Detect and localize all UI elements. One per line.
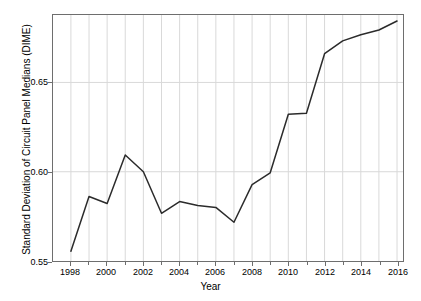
x-tick-label-0: 1998 xyxy=(50,267,90,277)
y-tick-label-0: 0.55 xyxy=(8,257,48,267)
x-tick-mark-2013 xyxy=(343,262,344,265)
x-tick-mark-2004 xyxy=(179,262,180,266)
x-tick-mark-2014 xyxy=(361,262,362,266)
x-tick-mark-2012 xyxy=(325,262,326,266)
y-tick-label-1: 0.60 xyxy=(8,167,48,177)
x-tick-mark-2011 xyxy=(307,262,308,265)
x-tick-label-8: 2014 xyxy=(341,267,381,277)
x-tick-mark-2016 xyxy=(398,262,399,266)
x-tick-mark-2015 xyxy=(380,262,381,265)
x-tick-mark-2010 xyxy=(288,262,289,266)
x-tick-mark-2005 xyxy=(197,262,198,265)
y-tick-label-2: 0.65 xyxy=(8,77,48,87)
x-tick-mark-2009 xyxy=(270,262,271,265)
x-tick-mark-2008 xyxy=(252,262,253,266)
x-tick-mark-2003 xyxy=(161,262,162,265)
x-tick-mark-1998 xyxy=(70,262,71,266)
chart-figure: Standard Deviation of Circuit Panel Medi… xyxy=(0,0,421,301)
x-tick-label-7: 2012 xyxy=(305,267,345,277)
x-tick-mark-2000 xyxy=(106,262,107,266)
x-tick-label-2: 2002 xyxy=(123,267,163,277)
y-axis-title: Standard Deviation of Circuit Panel Medi… xyxy=(21,10,32,270)
x-tick-label-3: 2004 xyxy=(159,267,199,277)
x-tick-mark-2002 xyxy=(143,262,144,266)
y-tick-mark-0 xyxy=(48,262,52,263)
data-line-series xyxy=(53,15,403,261)
x-tick-label-6: 2010 xyxy=(268,267,308,277)
x-tick-label-1: 2000 xyxy=(86,267,126,277)
x-tick-mark-1999 xyxy=(88,262,89,265)
x-tick-label-9: 2016 xyxy=(378,267,418,277)
x-tick-mark-2001 xyxy=(125,262,126,265)
x-tick-mark-2007 xyxy=(234,262,235,265)
x-tick-label-5: 2008 xyxy=(232,267,272,277)
plot-area xyxy=(52,14,404,262)
x-axis-title: Year xyxy=(0,281,421,292)
series-line-0 xyxy=(71,21,397,251)
x-tick-label-4: 2006 xyxy=(195,267,235,277)
x-tick-mark-2006 xyxy=(215,262,216,266)
